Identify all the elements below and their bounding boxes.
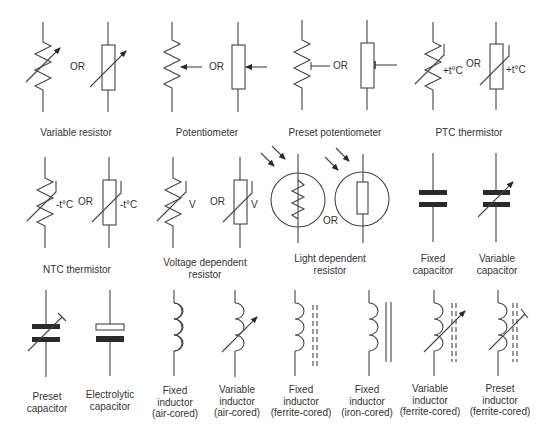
- label-line2: capacitor: [477, 265, 518, 277]
- preset-capacitor-label: Preset capacitor: [27, 391, 68, 414]
- potentiometer-rect-symbol: [232, 22, 267, 112]
- or-text: OR: [466, 58, 481, 69]
- variable-resistor-zigzag-symbol: [26, 22, 60, 112]
- vdr-zigzag-symbol: [157, 157, 186, 248]
- label-line1: Preset: [470, 383, 531, 395]
- ptc-thermistor-zigzag-symbol: [415, 22, 444, 110]
- label-line1: Fixed: [271, 384, 332, 396]
- ntc-thermistor-zigzag-symbol: [27, 157, 56, 248]
- label-line2: capacitor: [27, 403, 68, 415]
- label-line3: (ferrite-cored): [470, 406, 531, 418]
- vdr-label: Voltage dependent resistor: [163, 257, 246, 280]
- ldr-label: Light dependent resistor: [294, 253, 366, 276]
- preset-capacitor-symbol: [28, 290, 66, 377]
- variable-inductor-air-symbol: [222, 290, 257, 377]
- potentiometer-label: Potentiometer: [176, 127, 238, 139]
- fixed-capacitor-symbol: [419, 153, 447, 242]
- label-line2: capacitor: [413, 265, 454, 277]
- label-line2: inductor: [271, 396, 332, 408]
- label-line1: Variable: [477, 253, 518, 265]
- or-text: OR: [70, 61, 85, 72]
- ldr-label-line1: Light dependent: [294, 253, 366, 265]
- vdr-annotation: V: [251, 199, 258, 210]
- preset-inductor-ferrite-symbol: [489, 290, 528, 376]
- potentiometer-zigzag-symbol: [164, 22, 202, 112]
- ptc-annotation: +t°C: [506, 64, 526, 75]
- ntc-thermistor-rect-symbol: [92, 157, 121, 248]
- label-line1: Fixed: [152, 385, 198, 397]
- or-text: OR: [323, 215, 338, 226]
- variable-inductor-air-label: Variable inductor (air-cored): [214, 384, 260, 419]
- preset-inductor-ferrite-label: Preset inductor (ferrite-cored): [470, 383, 531, 418]
- ptc-thermistor-label: PTC thermistor: [435, 127, 502, 139]
- ntc-annotation: -t°C: [120, 199, 137, 210]
- vdr-annotation: V: [189, 199, 196, 210]
- electrolytic-capacitor-symbol: [96, 290, 124, 376]
- fixed-inductor-iron-symbol: [369, 290, 391, 376]
- ldr-label-line2: resistor: [294, 265, 366, 277]
- or-text: OR: [209, 61, 224, 72]
- fixed-inductor-ferrite-label: Fixed inductor (ferrite-cored): [271, 384, 332, 419]
- preset-potentiometer-rect-symbol: [361, 20, 397, 110]
- label-line1: Fixed: [413, 253, 454, 265]
- variable-capacitor-symbol: [478, 153, 513, 242]
- label-line3: (ferrite-cored): [400, 406, 461, 418]
- label-line2: inductor: [214, 396, 260, 408]
- or-text: OR: [210, 196, 225, 207]
- ldr-rect-symbol: [325, 148, 389, 243]
- label-line1: Electrolytic: [86, 389, 134, 401]
- variable-resistor-label: Variable resistor: [40, 127, 112, 139]
- label-line3: (iron-cored): [341, 407, 393, 419]
- ldr-zigzag-symbol: [261, 146, 325, 243]
- or-text: OR: [333, 60, 348, 71]
- ptc-annotation: +t°C: [443, 65, 463, 76]
- variable-inductor-ferrite-symbol: [424, 290, 465, 376]
- label-line1: Fixed: [341, 384, 393, 396]
- label-line2: inductor: [341, 396, 393, 408]
- electrolytic-capacitor-label: Electrolytic capacitor: [86, 389, 134, 412]
- vdr-label-line2: resistor: [163, 269, 246, 281]
- preset-potentiometer-label: Preset potentiometer: [289, 127, 382, 139]
- fixed-inductor-air-label: Fixed inductor (air-cored): [152, 385, 198, 420]
- label-line2: inductor: [400, 395, 461, 407]
- fixed-capacitor-label: Fixed capacitor: [413, 253, 454, 276]
- variable-capacitor-label: Variable capacitor: [477, 253, 518, 276]
- label-line2: inductor: [152, 397, 198, 409]
- fixed-inductor-ferrite-symbol: [295, 290, 317, 376]
- label-line1: Preset: [27, 391, 68, 403]
- vdr-label-line1: Voltage dependent: [163, 257, 246, 269]
- label-line1: Variable: [400, 383, 461, 395]
- label-line2: inductor: [470, 395, 531, 407]
- label-line3: (air-cored): [152, 408, 198, 420]
- ntc-thermistor-label: NTC thermistor: [43, 264, 111, 276]
- ptc-thermistor-rect-symbol: [480, 22, 509, 110]
- or-text: OR: [78, 196, 93, 207]
- fixed-inductor-air-symbol: [174, 290, 183, 376]
- variable-inductor-ferrite-label: Variable inductor (ferrite-cored): [400, 383, 461, 418]
- label-line3: (air-cored): [214, 407, 260, 419]
- ntc-annotation: -t°C: [56, 199, 73, 210]
- label-line2: capacitor: [86, 401, 134, 413]
- label-line1: Variable: [214, 384, 260, 396]
- preset-potentiometer-zigzag-symbol: [294, 20, 330, 110]
- vdr-rect-symbol: [223, 157, 252, 248]
- fixed-inductor-iron-label: Fixed inductor (iron-cored): [341, 384, 393, 419]
- variable-resistor-rect-symbol: [90, 22, 126, 112]
- label-line3: (ferrite-cored): [271, 407, 332, 419]
